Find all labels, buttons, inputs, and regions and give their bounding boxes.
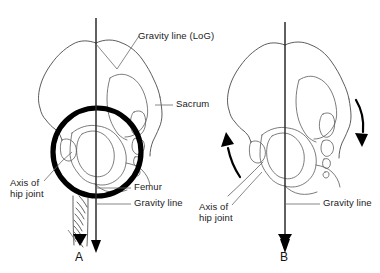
panel-b-graphics	[221, 22, 368, 253]
sacrum-outline-a	[110, 74, 148, 137]
label-gravity-line-b: Gravity line	[323, 198, 372, 209]
iliac-crest-b	[285, 42, 349, 99]
label-axis-of-hip-joint-a-line1: Axis of	[10, 178, 39, 189]
label-axis-of-hip-joint-b-line2: hip joint	[199, 213, 233, 224]
anterior-rotation-arrow-curve	[228, 148, 240, 177]
label-gravity-line-a: Gravity line	[134, 198, 183, 209]
sacrum-medial-border-b	[296, 80, 316, 142]
coccyx-seg2-b	[321, 140, 334, 156]
iliac-crest-a	[96, 40, 160, 97]
sacrum-outline-b	[299, 76, 337, 139]
coccyx-seg1-b	[319, 113, 334, 137]
panel-label-b: B	[280, 250, 288, 264]
anterior-rotation-arrowhead	[221, 132, 234, 147]
gravity-line-arrowhead-a	[91, 240, 101, 253]
label-femur: Femur	[134, 182, 162, 193]
ilium-outline-b	[228, 43, 286, 142]
label-axis-of-hip-joint-b-line1: Axis of	[199, 202, 228, 213]
coccyx-seg4-b	[323, 172, 329, 178]
ilium-lateral-border-a	[150, 97, 162, 156]
ilium-outline-a	[39, 41, 97, 140]
panel-label-a: A	[75, 250, 83, 264]
ilium-lateral-border-b	[339, 99, 351, 158]
label-sacrum: Sacrum	[176, 99, 209, 110]
posterior-rotation-arrowhead	[355, 133, 368, 147]
panel-b-marker-arrowhead	[278, 234, 292, 246]
hip-joint-highlight-circle-a	[53, 108, 141, 196]
greater-trochanter-a	[60, 139, 76, 161]
anatomy-figure: Gravity line (LoG) Sacrum Axis of hip jo…	[0, 0, 380, 273]
label-gravity-line-log: Gravity line (LoG)	[138, 31, 214, 42]
greater-trochanter-b	[249, 141, 265, 163]
posterior-rotation-arrow-curve	[356, 100, 363, 132]
label-axis-of-hip-joint-a-line2: hip joint	[10, 189, 44, 200]
panel-a-graphics	[39, 18, 174, 253]
